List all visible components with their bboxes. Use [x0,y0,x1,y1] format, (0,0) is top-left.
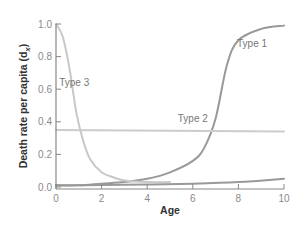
y-tick-label: 0.4 [38,116,52,127]
y-tick-label: 1.0 [38,19,52,30]
x-tick-label: 10 [278,193,290,204]
y-tick-label: 0.0 [38,182,52,193]
y-tick-label: 0.8 [38,51,52,62]
y-tick-label: 0.2 [38,149,52,160]
x-tick-label: 4 [144,193,150,204]
x-tick-label: 2 [99,193,105,204]
x-tick-label: 0 [53,193,59,204]
survivorship-death-rate-chart: Type 1Type 2Type 3 0.00.20.40.60.81.0024… [0,0,300,230]
plot-area: Type 1Type 2Type 3 [56,24,284,185]
curve-label-type-3: Type 3 [59,77,89,88]
series-type-2 [56,130,284,132]
y-axis-title: Death rate per capita (dx) [17,44,32,169]
x-axis-title: Age [160,204,180,216]
y-tick-label: 0.6 [38,84,52,95]
curve-label-type-2: Type 2 [178,113,208,124]
series-type-1 [56,26,284,186]
x-tick-label: 6 [190,193,196,204]
curve-label-type-1: Type 1 [237,38,267,49]
x-tick-label: 8 [236,193,242,204]
series-type-3 [56,24,170,182]
